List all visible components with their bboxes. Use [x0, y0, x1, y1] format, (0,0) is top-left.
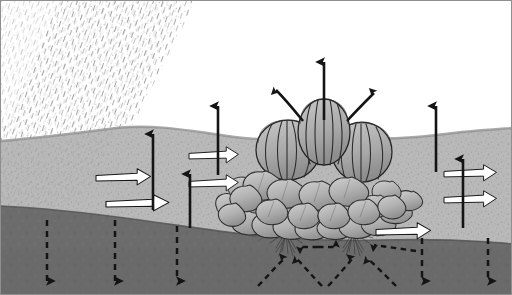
soil-water-balance-figure: [0, 0, 512, 295]
diagram-canvas: [0, 0, 512, 295]
